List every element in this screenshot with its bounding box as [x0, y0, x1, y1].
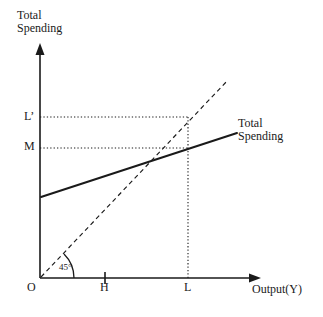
total-spending-curve: [41, 133, 237, 197]
curve-label-line2: Spending: [238, 129, 283, 143]
diagram-canvas: [0, 0, 323, 317]
origin-label: O: [27, 281, 36, 294]
keynesian-cross-diagram: TotalSpending TotalSpending Output(Y) O …: [0, 0, 323, 317]
y-level-m-label: M: [24, 140, 35, 153]
x-axis-title: Output(Y): [252, 283, 302, 296]
y-axis-title-line2: Spending: [17, 21, 62, 35]
y-axis-title-line1: Total: [17, 8, 42, 22]
x-axis: [40, 274, 261, 283]
x-tick-h-label: H: [100, 281, 109, 294]
y-axis-title: TotalSpending: [17, 9, 62, 36]
y-level-l-prime-label: L’: [24, 110, 34, 123]
angle-45-label: 45°: [59, 262, 72, 272]
total-spending-curve-label: TotalSpending: [238, 117, 283, 144]
curve-label-line1: Total: [238, 116, 263, 130]
forty-five-degree-line: [41, 80, 228, 277]
y-axis: [36, 43, 45, 278]
arrow-up-icon: [36, 43, 45, 55]
x-tick-l-label: L: [184, 281, 191, 294]
